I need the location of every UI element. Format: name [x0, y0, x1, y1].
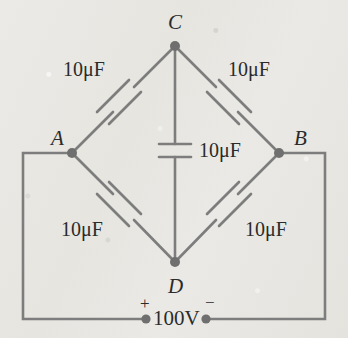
- node-b-dot: [274, 148, 284, 158]
- wire-d-to-capacitor-db: [175, 220, 216, 262]
- node-label-d: D: [168, 276, 183, 297]
- node-a-dot: [67, 148, 77, 158]
- wire-a-to-capacitor-ad: [72, 153, 113, 194]
- wire-capacitor-ac-to-c: [134, 46, 175, 87]
- capacitor-label-cd: 10μF: [199, 140, 241, 160]
- capacitor-label-cb: 10μF: [228, 59, 270, 79]
- wire-a-to-capacitor-ac: [72, 112, 113, 153]
- capacitor-label-ad: 10μF: [61, 219, 103, 239]
- wire-capacitor-ad-to-d: [134, 220, 175, 262]
- source-voltage-label: 100V: [153, 308, 200, 329]
- source-negative-sign: −: [205, 294, 215, 311]
- source-positive-terminal-dot: [141, 314, 150, 323]
- capacitor-label-db: 10μF: [245, 219, 287, 239]
- capacitor-label-ac: 10μF: [63, 59, 105, 79]
- node-d-dot: [170, 257, 180, 267]
- wire-capacitor-cb-to-b: [238, 112, 279, 153]
- source-positive-sign: +: [140, 295, 150, 312]
- node-label-c: C: [168, 12, 182, 33]
- node-c-dot: [170, 41, 180, 51]
- source-negative-terminal-dot: [201, 314, 210, 323]
- wire-capacitor-db-to-b: [238, 153, 279, 194]
- node-label-b: B: [294, 128, 307, 149]
- node-label-a: A: [51, 128, 64, 149]
- wire-c-to-capacitor-cb: [175, 46, 216, 87]
- circuit-diagram: A B C D 10μF 10μF 10μF 10μF 10μF + 100V …: [0, 0, 348, 338]
